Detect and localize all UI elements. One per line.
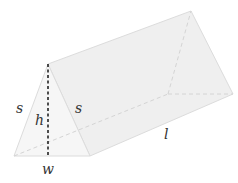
label-width: w bbox=[42, 161, 54, 177]
label-height: h bbox=[35, 112, 44, 128]
triangular-prism-diagram: s h s l w bbox=[0, 0, 238, 183]
label-length: l bbox=[164, 126, 168, 142]
label-side-left: s bbox=[16, 100, 23, 116]
label-side-right: s bbox=[75, 100, 82, 116]
